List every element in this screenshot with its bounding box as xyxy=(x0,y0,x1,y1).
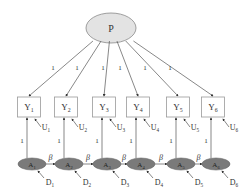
disturbance-path xyxy=(187,171,193,178)
latent-factor-label: P xyxy=(108,23,114,34)
disturbance-label: D5 xyxy=(195,178,204,188)
disturbance-label: D2 xyxy=(83,178,92,188)
error-u-label: U2 xyxy=(79,123,88,133)
loading-label: 1 xyxy=(101,64,105,72)
error-u-label: U1 xyxy=(42,123,51,133)
disturbance-label: D4 xyxy=(155,178,164,188)
beta-label: β xyxy=(85,153,90,162)
error-path xyxy=(72,119,78,127)
disturbance-label: D6 xyxy=(230,178,239,188)
loading-label: 1 xyxy=(143,64,147,72)
disturbance-path xyxy=(75,171,81,178)
disturbance-label: D3 xyxy=(121,178,130,188)
a-loading-label: 1 xyxy=(204,137,208,145)
error-path xyxy=(184,119,190,127)
beta-label: β xyxy=(158,153,163,162)
a-loading-label: 1 xyxy=(169,137,173,145)
error-u-label: U4 xyxy=(151,123,160,133)
beta-label: β xyxy=(48,153,53,162)
disturbance-path xyxy=(113,171,119,178)
disturbance-path xyxy=(38,171,44,178)
error-path xyxy=(144,119,150,127)
error-u-label: U3 xyxy=(117,123,126,133)
loading-label: 1 xyxy=(118,64,122,72)
beta-label: β xyxy=(121,153,126,162)
loading-label: 1 xyxy=(51,64,55,72)
a-loading-label: 1 xyxy=(20,137,24,145)
disturbance-path xyxy=(222,171,228,178)
error-u-label: U6 xyxy=(230,123,239,133)
disturbance-label: D1 xyxy=(46,178,55,188)
beta-label: β xyxy=(196,153,201,162)
a-loading-label: 1 xyxy=(57,137,61,145)
error-path xyxy=(110,119,116,127)
disturbance-path xyxy=(147,171,153,178)
loading-path-3 xyxy=(104,41,109,96)
a-loading-label: 1 xyxy=(95,137,99,145)
a-loading-label: 1 xyxy=(129,137,133,145)
loading-label: 1 xyxy=(75,64,79,72)
error-u-label: U5 xyxy=(191,123,200,133)
error-path xyxy=(223,119,229,127)
loading-label: 1 xyxy=(168,64,172,72)
error-path xyxy=(35,119,41,127)
sem-diagram: P1Y1U11A1D1β1Y2U21A2D2β1Y3U31A3D3β1Y4U41… xyxy=(0,0,252,193)
